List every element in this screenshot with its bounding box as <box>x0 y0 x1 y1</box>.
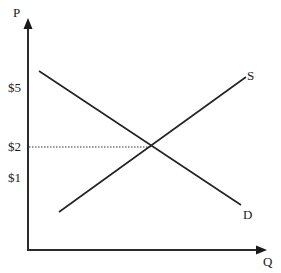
supply-curve-label: S <box>247 69 254 82</box>
price-tick-5: $5 <box>8 81 21 94</box>
y-axis-arrow-icon <box>24 18 33 29</box>
price-tick-1: $1 <box>8 171 21 184</box>
price-axis <box>24 18 33 250</box>
quantity-axis-label: Q <box>263 255 272 268</box>
supply-demand-diagram <box>0 0 281 273</box>
demand-curve <box>39 71 241 205</box>
quantity-axis <box>27 246 267 255</box>
price-axis-label: P <box>13 6 20 19</box>
supply-curve <box>59 77 246 212</box>
demand-curve-label: D <box>243 208 252 221</box>
price-tick-2: $2 <box>8 140 21 153</box>
